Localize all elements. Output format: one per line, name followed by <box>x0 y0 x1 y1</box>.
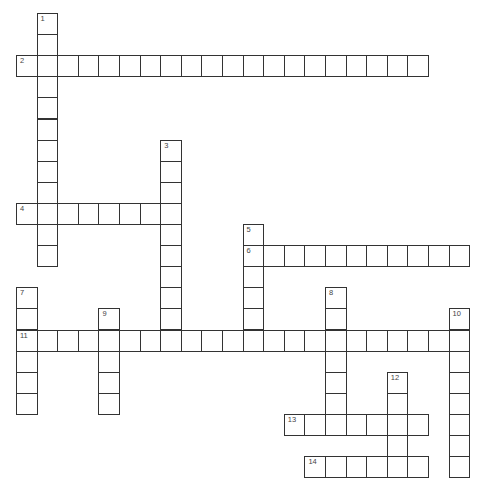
crossword-cell[interactable] <box>16 308 38 330</box>
crossword-cell[interactable] <box>16 351 38 373</box>
crossword-cell[interactable] <box>57 330 79 352</box>
crossword-cell[interactable] <box>325 245 347 267</box>
crossword-cell[interactable] <box>16 393 38 415</box>
crossword-cell[interactable] <box>366 414 388 436</box>
crossword-cell[interactable] <box>263 55 285 77</box>
crossword-cell[interactable] <box>346 55 368 77</box>
crossword-cell[interactable] <box>449 372 471 394</box>
crossword-cell[interactable] <box>346 330 368 352</box>
crossword-cell[interactable]: 4 <box>16 203 38 225</box>
crossword-cell[interactable] <box>140 55 162 77</box>
crossword-cell[interactable] <box>160 330 182 352</box>
crossword-cell[interactable] <box>243 55 265 77</box>
crossword-cell[interactable] <box>243 266 265 288</box>
crossword-cell[interactable] <box>37 55 59 77</box>
crossword-cell[interactable] <box>37 34 59 56</box>
crossword-cell[interactable] <box>449 435 471 457</box>
crossword-cell[interactable] <box>78 330 100 352</box>
crossword-cell[interactable] <box>387 330 409 352</box>
crossword-cell[interactable] <box>449 245 471 267</box>
crossword-cell[interactable] <box>428 330 450 352</box>
crossword-cell[interactable] <box>140 203 162 225</box>
crossword-cell[interactable] <box>304 245 326 267</box>
crossword-cell[interactable] <box>37 119 59 141</box>
crossword-cell[interactable] <box>407 245 429 267</box>
crossword-cell[interactable] <box>284 55 306 77</box>
crossword-cell[interactable] <box>284 330 306 352</box>
crossword-cell[interactable] <box>387 245 409 267</box>
crossword-cell[interactable]: 6 <box>243 245 265 267</box>
crossword-cell[interactable] <box>160 266 182 288</box>
crossword-cell[interactable] <box>181 330 203 352</box>
crossword-cell[interactable] <box>160 161 182 183</box>
crossword-cell[interactable]: 11 <box>16 330 38 352</box>
crossword-cell[interactable] <box>407 330 429 352</box>
crossword-cell[interactable] <box>98 203 120 225</box>
crossword-cell[interactable] <box>16 372 38 394</box>
crossword-cell[interactable] <box>366 55 388 77</box>
crossword-cell[interactable] <box>119 203 141 225</box>
crossword-cell[interactable]: 2 <box>16 55 38 77</box>
crossword-cell[interactable] <box>160 287 182 309</box>
crossword-cell[interactable]: 10 <box>449 308 471 330</box>
crossword-cell[interactable] <box>428 245 450 267</box>
crossword-cell[interactable] <box>449 414 471 436</box>
crossword-cell[interactable] <box>57 203 79 225</box>
crossword-cell[interactable] <box>37 224 59 246</box>
crossword-cell[interactable] <box>160 308 182 330</box>
crossword-cell[interactable] <box>263 245 285 267</box>
crossword-cell[interactable] <box>98 393 120 415</box>
crossword-cell[interactable] <box>160 245 182 267</box>
crossword-cell[interactable] <box>387 393 409 415</box>
crossword-cell[interactable] <box>284 245 306 267</box>
crossword-cell[interactable] <box>98 55 120 77</box>
crossword-cell[interactable] <box>325 372 347 394</box>
crossword-cell[interactable] <box>346 245 368 267</box>
crossword-cell[interactable] <box>449 330 471 352</box>
crossword-cell[interactable] <box>119 330 141 352</box>
crossword-cell[interactable]: 8 <box>325 287 347 309</box>
crossword-cell[interactable]: 5 <box>243 224 265 246</box>
crossword-cell[interactable] <box>346 414 368 436</box>
crossword-cell[interactable] <box>160 182 182 204</box>
crossword-cell[interactable] <box>325 351 347 373</box>
crossword-cell[interactable] <box>37 97 59 119</box>
crossword-cell[interactable] <box>387 456 409 478</box>
crossword-cell[interactable] <box>160 55 182 77</box>
crossword-cell[interactable] <box>78 55 100 77</box>
crossword-cell[interactable] <box>243 308 265 330</box>
crossword-cell[interactable] <box>387 414 409 436</box>
crossword-cell[interactable]: 3 <box>160 140 182 162</box>
crossword-cell[interactable] <box>366 456 388 478</box>
crossword-cell[interactable] <box>37 161 59 183</box>
crossword-cell[interactable] <box>222 330 244 352</box>
crossword-cell[interactable] <box>325 456 347 478</box>
crossword-cell[interactable] <box>304 330 326 352</box>
crossword-cell[interactable] <box>201 330 223 352</box>
crossword-cell[interactable] <box>263 330 285 352</box>
crossword-cell[interactable] <box>98 330 120 352</box>
crossword-cell[interactable]: 7 <box>16 287 38 309</box>
crossword-cell[interactable] <box>346 456 368 478</box>
crossword-cell[interactable] <box>243 287 265 309</box>
crossword-cell[interactable]: 14 <box>304 456 326 478</box>
crossword-cell[interactable] <box>325 308 347 330</box>
crossword-cell[interactable] <box>325 330 347 352</box>
crossword-cell[interactable] <box>37 182 59 204</box>
crossword-cell[interactable] <box>366 245 388 267</box>
crossword-cell[interactable] <box>407 456 429 478</box>
crossword-cell[interactable] <box>37 76 59 98</box>
crossword-cell[interactable] <box>98 351 120 373</box>
crossword-cell[interactable] <box>304 55 326 77</box>
crossword-cell[interactable] <box>160 224 182 246</box>
crossword-cell[interactable] <box>222 55 244 77</box>
crossword-cell[interactable] <box>119 55 141 77</box>
crossword-cell[interactable] <box>98 372 120 394</box>
crossword-cell[interactable]: 13 <box>284 414 306 436</box>
crossword-cell[interactable] <box>201 55 223 77</box>
crossword-cell[interactable] <box>140 330 162 352</box>
crossword-cell[interactable] <box>160 203 182 225</box>
crossword-cell[interactable] <box>78 203 100 225</box>
crossword-cell[interactable] <box>304 414 326 436</box>
crossword-cell[interactable] <box>181 55 203 77</box>
